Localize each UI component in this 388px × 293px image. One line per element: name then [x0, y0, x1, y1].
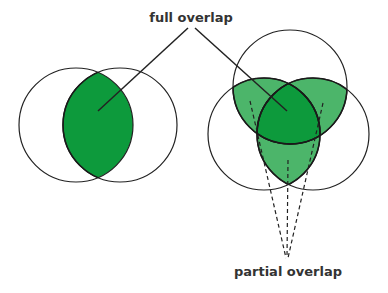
partial-overlap-label: partial overlap — [234, 264, 342, 279]
full-overlap-label: full overlap — [149, 10, 233, 25]
venn-overlap-diagram: full overlap partial overlap — [0, 0, 388, 293]
two-circle-venn — [19, 68, 177, 182]
three-circle-venn — [208, 30, 369, 190]
full-overlap-leader-left — [98, 28, 188, 111]
